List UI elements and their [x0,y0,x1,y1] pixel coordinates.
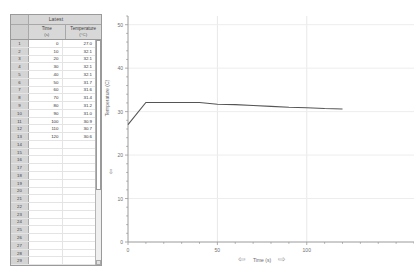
cell-temperature[interactable]: 31.4 [63,94,96,101]
table-row[interactable]: 1110030.9 [11,118,95,126]
chart-plot[interactable]: 01020304050050100 [104,0,414,276]
row-number[interactable]: 7 [11,87,29,94]
table-row[interactable]: 1312030.6 [11,133,95,141]
cell-temperature[interactable]: 32.1 [63,71,96,78]
cell-temperature[interactable] [63,141,96,148]
cell-temperature[interactable] [63,164,96,171]
table-row[interactable]: 16 [11,156,95,164]
table-row[interactable]: 18 [11,172,95,180]
cell-time[interactable] [29,141,63,148]
cell-time[interactable]: 70 [29,94,63,101]
cell-temperature[interactable] [63,226,96,233]
table-row[interactable]: 32032.1 [11,56,95,64]
table-row[interactable]: 23 [11,211,95,219]
row-number[interactable]: 18 [11,172,29,179]
table-row[interactable]: 24 [11,219,95,227]
row-number[interactable]: 9 [11,102,29,109]
cell-time[interactable]: 80 [29,102,63,109]
row-number[interactable]: 15 [11,149,29,156]
row-number[interactable]: 22 [11,203,29,210]
row-number[interactable]: 1 [11,40,29,47]
cell-temperature[interactable] [63,219,96,226]
table-row[interactable]: 20 [11,188,95,196]
column-header-temperature[interactable]: Temperature (°C) [66,25,102,39]
row-number[interactable]: 4 [11,63,29,70]
cell-time[interactable]: 110 [29,125,63,132]
cell-time[interactable]: 10 [29,48,63,55]
cell-temperature[interactable] [63,203,96,210]
table-row[interactable]: 19 [11,180,95,188]
row-number[interactable]: 3 [11,56,29,63]
row-number[interactable]: 24 [11,219,29,226]
cell-time[interactable] [29,250,63,257]
row-number[interactable]: 13 [11,133,29,140]
cell-temperature[interactable] [63,195,96,202]
row-number[interactable]: 26 [11,234,29,241]
table-row[interactable]: 26 [11,234,95,242]
cell-time[interactable]: 0 [29,40,63,47]
cell-time[interactable] [29,195,63,202]
cell-time[interactable] [29,211,63,218]
cell-time[interactable]: 60 [29,87,63,94]
row-number[interactable]: 23 [11,211,29,218]
chart-area[interactable]: 01020304050050100 [104,0,414,276]
row-number[interactable]: 10 [11,110,29,117]
cell-time[interactable] [29,172,63,179]
row-number[interactable]: 20 [11,188,29,195]
column-header-time[interactable]: Time (s) [29,25,66,39]
row-number[interactable]: 19 [11,180,29,187]
table-row[interactable]: 17 [11,164,95,172]
cell-temperature[interactable]: 32.1 [63,56,96,63]
cell-time[interactable] [29,156,63,163]
cell-temperature[interactable] [63,257,96,264]
cell-temperature[interactable]: 30.7 [63,125,96,132]
cell-time[interactable] [29,203,63,210]
cell-temperature[interactable] [63,156,96,163]
cell-temperature[interactable]: 31.0 [63,110,96,117]
table-row[interactable]: 43032.1 [11,63,95,71]
table-vertical-scrollbar[interactable] [95,40,101,265]
cell-time[interactable]: 90 [29,110,63,117]
cell-temperature[interactable]: 27.0 [63,40,96,47]
cell-time[interactable]: 120 [29,133,63,140]
cell-temperature[interactable]: 31.2 [63,102,96,109]
table-grid[interactable]: 1027.021032.132032.143032.154032.165031.… [11,40,101,265]
cell-time[interactable] [29,164,63,171]
cell-temperature[interactable]: 31.7 [63,79,96,86]
table-row[interactable]: 98031.2 [11,102,95,110]
row-number[interactable]: 6 [11,79,29,86]
row-number[interactable]: 16 [11,156,29,163]
row-number[interactable]: 27 [11,242,29,249]
row-number[interactable]: 14 [11,141,29,148]
row-number[interactable]: 29 [11,257,29,264]
cell-temperature[interactable]: 30.6 [63,133,96,140]
table-row[interactable]: 29 [11,257,95,265]
cell-temperature[interactable] [63,149,96,156]
cell-time[interactable] [29,149,63,156]
row-number[interactable]: 28 [11,250,29,257]
row-number[interactable]: 25 [11,226,29,233]
cell-temperature[interactable] [63,234,96,241]
table-row[interactable]: 21032.1 [11,48,95,56]
cell-time[interactable] [29,257,63,264]
row-number[interactable]: 12 [11,125,29,132]
row-number[interactable]: 21 [11,195,29,202]
table-row[interactable]: 15 [11,149,95,157]
cell-time[interactable] [29,188,63,195]
y-axis-scroll-down-arrow[interactable]: ⇩ [108,168,114,175]
table-row[interactable]: 14 [11,141,95,149]
cell-temperature[interactable]: 30.9 [63,118,96,125]
row-number[interactable]: 17 [11,164,29,171]
cell-temperature[interactable] [63,242,96,249]
scrollbar-thumb[interactable] [96,40,101,190]
data-table-panel[interactable]: Latest Time (s) Temperature (°C) 1027.02… [10,14,102,266]
table-row[interactable]: 54032.1 [11,71,95,79]
table-row[interactable]: 65031.7 [11,79,95,87]
cell-time[interactable]: 100 [29,118,63,125]
cell-temperature[interactable] [63,211,96,218]
cell-time[interactable]: 40 [29,71,63,78]
scroll-down-button[interactable] [96,260,101,265]
table-row[interactable]: 22 [11,203,95,211]
cell-time[interactable]: 50 [29,79,63,86]
cell-time[interactable] [29,234,63,241]
